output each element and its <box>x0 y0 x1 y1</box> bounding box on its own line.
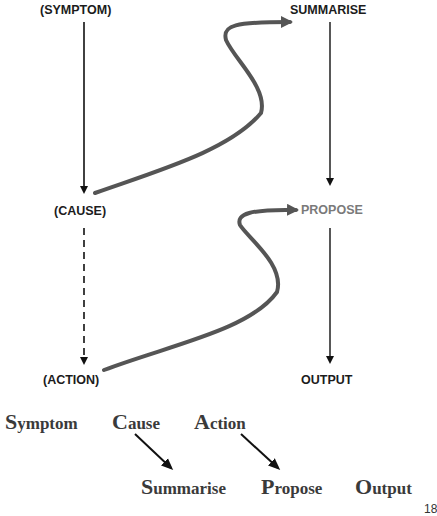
action-to-propose-diagonal-arrow <box>241 434 278 468</box>
page-number: 18 <box>424 502 437 516</box>
mnemonic-output: Output <box>355 474 412 500</box>
summarise-label: SUMMARISE <box>290 3 366 17</box>
mnemonic-action: Action <box>194 409 246 435</box>
action-label: (ACTION) <box>43 373 99 387</box>
propose-label: PROPOSE <box>301 203 363 217</box>
output-label: OUTPUT <box>301 373 352 387</box>
mnemonic-symptom: Symptom <box>5 409 78 435</box>
cause-label: (CAUSE) <box>54 204 106 218</box>
cause-to-summarise-curve-arrow <box>95 22 290 193</box>
mnemonic-propose: Propose <box>261 474 322 500</box>
action-to-propose-curve-arrow <box>104 210 296 370</box>
mnemonic-summarise: Summarise <box>141 474 226 500</box>
symptom-label: (SYMPTOM) <box>40 3 111 17</box>
mnemonic-cause: Cause <box>112 409 160 435</box>
cause-to-summarise-diagonal-arrow <box>135 434 171 468</box>
